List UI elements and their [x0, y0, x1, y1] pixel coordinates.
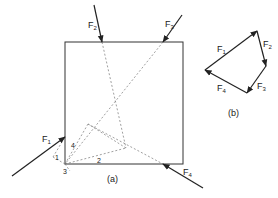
construction-label-3: 3: [63, 168, 67, 175]
polygon-f1: [205, 31, 257, 70]
polygon-label-f4: F4: [217, 83, 227, 94]
label-f3: F3: [165, 19, 175, 30]
label-f1: F1: [42, 134, 52, 145]
construction-label-4: 4: [71, 142, 75, 149]
rigid-body-square: [65, 42, 183, 164]
figure-a: F2 F3 F1 F4 4 1 3 2 (a): [12, 5, 203, 188]
force-f2-arrow: [94, 5, 102, 42]
force-diagram: F2 F3 F1 F4 4 1 3 2 (a) F1 F2 F3 F4 (b): [0, 0, 278, 198]
construction-label-1: 1: [55, 154, 59, 161]
label-f2: F2: [88, 20, 98, 31]
caption-a: (a): [107, 174, 118, 184]
construction-lines: [53, 42, 163, 171]
figure-b-force-polygon: F1 F2 F3 F4 (b): [205, 31, 273, 118]
polygon-label-f2: F2: [263, 39, 273, 50]
polygon-label-f3: F3: [257, 81, 267, 92]
polygon-f4: [205, 70, 247, 93]
construction-label-2: 2: [97, 157, 101, 164]
caption-b: (b): [228, 108, 239, 118]
label-f4: F4: [183, 167, 193, 178]
polygon-label-f1: F1: [217, 44, 227, 55]
